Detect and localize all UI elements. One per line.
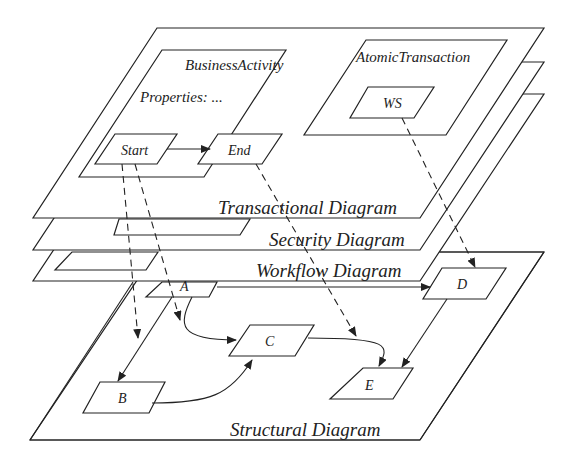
- security-inner-box: [114, 219, 250, 235]
- ws-label: WS: [383, 96, 402, 111]
- start-label: Start: [121, 143, 149, 158]
- transactional-plane-label: Transactional Diagram: [218, 197, 397, 218]
- security-plane-label: Security Diagram: [269, 229, 405, 250]
- structural-plane-label: Structural Diagram: [230, 419, 380, 440]
- e-label: E: [364, 378, 374, 393]
- atomic-transaction-label: AtomicTransaction: [355, 49, 470, 65]
- layered-diagram: BusinessActivity Properties: ... AtomicT…: [0, 0, 572, 465]
- workflow-inner-box: [55, 252, 158, 270]
- a-label: A: [179, 279, 189, 294]
- c-label: C: [265, 334, 275, 349]
- b-label: B: [118, 391, 127, 406]
- d-label: D: [456, 277, 467, 292]
- end-label: End: [227, 143, 252, 158]
- business-activity-label: BusinessActivity: [185, 57, 284, 73]
- properties-label: Properties: ...: [139, 89, 223, 105]
- workflow-plane-label: Workflow Diagram: [256, 260, 402, 281]
